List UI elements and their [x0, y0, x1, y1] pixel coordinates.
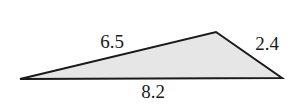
side-label-left-top: 6.5 — [100, 31, 124, 52]
side-label-bottom: 8.2 — [141, 81, 165, 102]
side-label-top-right: 2.4 — [255, 33, 279, 54]
triangle-svg: 6.5 2.4 8.2 — [0, 0, 301, 106]
triangle-shape — [20, 32, 282, 79]
triangle-diagram: 6.5 2.4 8.2 — [0, 0, 301, 106]
